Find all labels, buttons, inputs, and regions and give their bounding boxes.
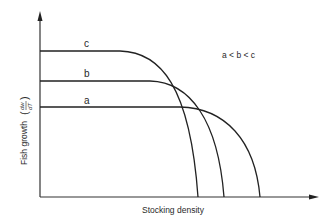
x-axis-label: Stocking density xyxy=(142,205,205,215)
y-axis-label-numerator: dw xyxy=(19,102,25,110)
y-axis-label-text: Fish growth xyxy=(19,121,29,165)
curve-b-label: b xyxy=(84,68,90,79)
curve-a xyxy=(40,107,260,197)
y-axis-label-denominator: dT xyxy=(27,102,33,110)
y-axis-label-paren-close: ) xyxy=(18,96,30,100)
curve-c-label: c xyxy=(84,38,89,49)
y-axis-arrow-icon xyxy=(38,11,43,21)
x-axis-arrow-icon xyxy=(309,195,319,200)
y-axis-label-paren-open: ( xyxy=(18,111,30,115)
chart-canvas: c b a a < b < c Stocking density Fish gr… xyxy=(0,0,334,219)
curve-a-label: a xyxy=(84,95,90,106)
y-axis-label: Fish growth ( dw dT ) xyxy=(18,96,33,165)
curve-c xyxy=(40,51,198,197)
ordering-annotation: a < b < c xyxy=(222,50,256,60)
